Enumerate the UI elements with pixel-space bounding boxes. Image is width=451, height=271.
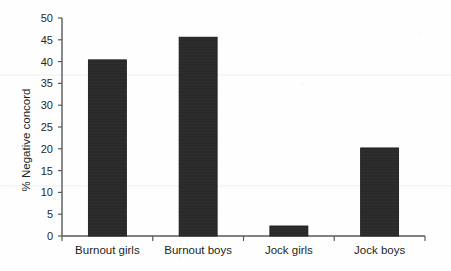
- x-axis-ticks: [62, 236, 425, 241]
- x-axis-labels: Burnout girlsBurnout boysJock girlsJock …: [75, 244, 405, 256]
- bar-chart-plot: 05101520253035404550 Burnout girlsBurnou…: [0, 0, 451, 271]
- bar-series: [88, 37, 398, 236]
- y-tick-label: 15: [41, 165, 53, 177]
- chart-figure: 05101520253035404550 Burnout girlsBurnou…: [0, 0, 451, 271]
- bar-texture: [88, 60, 126, 236]
- y-tick-label: 5: [47, 208, 53, 220]
- bar-texture: [361, 148, 399, 236]
- y-tick-label: 40: [41, 56, 53, 68]
- x-axis-category-label: Burnout boys: [164, 244, 232, 256]
- bar-texture: [179, 37, 217, 236]
- y-tick-label: 10: [41, 186, 53, 198]
- y-tick-label: 0: [47, 230, 53, 242]
- y-axis-title: % Negative concord: [20, 89, 32, 192]
- y-tick-label: 35: [41, 77, 53, 89]
- y-axis-ticks: 05101520253035404550: [41, 12, 62, 242]
- y-tick-label: 30: [41, 99, 53, 111]
- bar-texture: [270, 226, 308, 236]
- x-axis-category-label: Burnout girls: [75, 244, 140, 256]
- y-tick-label: 25: [41, 121, 53, 133]
- x-axis-category-label: Jock boys: [354, 244, 405, 256]
- y-tick-label: 50: [41, 12, 53, 24]
- y-tick-label: 45: [41, 34, 53, 46]
- y-tick-label: 20: [41, 143, 53, 155]
- x-axis-category-label: Jock girls: [265, 244, 313, 256]
